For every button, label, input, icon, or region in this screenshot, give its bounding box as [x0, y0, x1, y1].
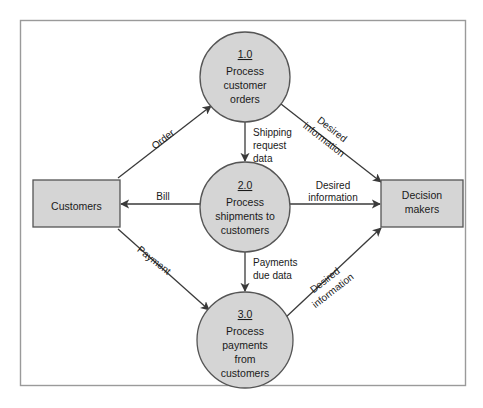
- process-1-0-circle: [200, 32, 290, 122]
- entity-customers-label: Customers: [51, 200, 102, 212]
- entity-decision-makers[interactable]: Decision makers: [381, 180, 463, 227]
- process-1-0-line-3: orders: [230, 93, 260, 105]
- flow-label-payments-due-data-line-2: due data: [253, 270, 292, 281]
- entity-decision-makers-label-line2: makers: [405, 203, 439, 215]
- entity-customers[interactable]: Customers: [33, 180, 120, 227]
- flow-label-shipping-request-data-line-3: data: [253, 153, 273, 164]
- flow-label-bill: Bill: [156, 191, 169, 202]
- data-flow-diagram: Customers Decision makers 1.0 Process cu…: [0, 0, 483, 408]
- process-3-0-line-3: from: [235, 353, 256, 365]
- process-3-0-line-1: Process: [226, 325, 264, 337]
- flow-label-desired-info-middle-line-1: Desired: [316, 180, 350, 191]
- process-2-0[interactable]: 2.0 Process shipments to customers: [200, 162, 290, 252]
- process-1-0-line-1: Process: [226, 65, 264, 77]
- diagram-canvas: Customers Decision makers 1.0 Process cu…: [0, 0, 483, 408]
- process-2-0-line-2: shipments to: [215, 210, 275, 222]
- process-2-0-number: 2.0: [238, 179, 253, 191]
- flow-label-shipping-request-data-line-2: request: [253, 140, 287, 151]
- process-3-0-number: 3.0: [238, 308, 253, 320]
- process-2-0-line-1: Process: [226, 196, 264, 208]
- process-1-0[interactable]: 1.0 Process customer orders: [200, 32, 290, 122]
- process-3-0-line-2: payments: [222, 339, 268, 351]
- process-3-0-line-4: customers: [221, 367, 269, 379]
- process-1-0-number: 1.0: [238, 48, 253, 60]
- flow-label-bill-line-1: Bill: [156, 191, 169, 202]
- process-1-0-line-2: customer: [223, 79, 267, 91]
- flow-label-shipping-request-data-line-1: Shipping: [253, 127, 292, 138]
- entity-decision-makers-label-line1: Decision: [402, 189, 442, 201]
- flow-label-desired-info-middle-line-2: information: [308, 192, 357, 203]
- process-3-0[interactable]: 3.0 Process payments from customers: [197, 292, 293, 388]
- process-2-0-line-3: customers: [221, 224, 269, 236]
- flow-label-payments-due-data-line-1: Payments: [253, 257, 297, 268]
